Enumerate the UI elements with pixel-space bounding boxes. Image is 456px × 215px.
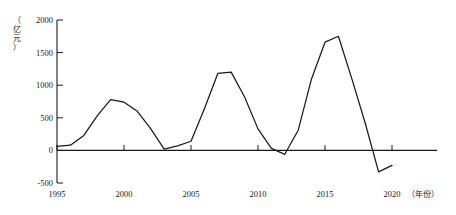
x-tick-label-2015: 2015 [317,189,334,199]
x-tick-label-2000: 2000 [116,189,133,199]
x-tick-label-2010: 2010 [250,189,267,199]
plot-area: 2000 1500 1000 500 0 -500 1995 2000 2005… [0,0,456,215]
y-tick-label-1500: 1500 [36,48,53,58]
y-tick-label-minus500: -500 [37,178,53,188]
y-tick-label-0: 0 [49,145,53,155]
y-tick-label-500: 500 [40,113,53,123]
data-series-line [57,36,392,172]
line-chart: （ 亿 元 ） 2000 1500 1000 500 0 -500 1995 2… [0,0,456,215]
x-tick-label-2020: 2020 [384,189,401,199]
x-tick-label-2005: 2005 [183,189,200,199]
y-tick-label-1000: 1000 [36,80,53,90]
x-tick-label-1995: 1995 [49,189,66,199]
x-axis-unit-label: （年份） [407,189,439,199]
y-tick-label-2000: 2000 [36,15,53,25]
